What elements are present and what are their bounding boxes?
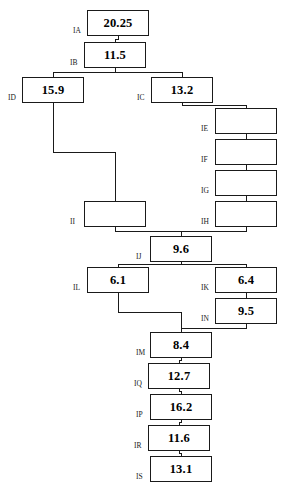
node-label-ia: IA	[73, 27, 81, 35]
connector-id-to-ii	[53, 103, 115, 201]
node-box-ig[interactable]	[215, 170, 277, 196]
node-box-im[interactable]: 8.4	[150, 332, 212, 358]
node-label-ih: IH	[201, 218, 209, 226]
node-label-in: IN	[201, 315, 209, 323]
node-label-ib: IB	[70, 59, 78, 67]
node-label-im: IM	[136, 349, 145, 357]
node-label-if: IF	[201, 156, 208, 164]
node-label-ir: IR	[134, 442, 142, 450]
node-box-iq[interactable]: 12.7	[148, 363, 210, 389]
connector-ib-to-id	[53, 68, 115, 77]
node-box-if[interactable]	[215, 139, 277, 165]
node-label-ik: IK	[201, 284, 209, 292]
node-label-id: ID	[8, 94, 16, 102]
node-label-ig: IG	[201, 187, 209, 195]
node-box-ih[interactable]	[215, 201, 277, 227]
node-box-ij[interactable]: 9.6	[150, 236, 212, 262]
node-box-ia[interactable]: 20.25	[87, 10, 149, 36]
node-box-ik[interactable]: 6.4	[215, 267, 277, 293]
node-value-is: 13.1	[170, 463, 193, 476]
node-value-ic: 13.2	[171, 84, 194, 97]
connector-in-to-im	[181, 324, 246, 332]
node-label-ic: IC	[137, 94, 145, 102]
node-value-il: 6.1	[110, 274, 126, 287]
node-value-iq: 12.7	[168, 370, 191, 383]
node-value-ir: 11.6	[168, 432, 190, 445]
connector-il-to-im	[118, 293, 181, 332]
connector-ii-to-ij	[115, 227, 181, 236]
node-box-il[interactable]: 6.1	[87, 267, 149, 293]
node-value-id: 15.9	[42, 84, 65, 97]
node-box-in[interactable]: 9.5	[215, 298, 277, 324]
node-value-im: 8.4	[173, 339, 189, 352]
node-box-is[interactable]: 13.1	[150, 456, 212, 482]
node-box-ib[interactable]: 11.5	[84, 42, 146, 68]
connector-ih-to-ij	[181, 227, 246, 236]
node-label-ie: IE	[201, 125, 208, 133]
tree-diagram-canvas: 20.25IA11.5IB15.9ID13.2ICIEIFIGIHII9.6IJ…	[0, 0, 289, 496]
node-value-ik: 6.4	[238, 274, 254, 287]
node-label-ip: IP	[136, 411, 143, 419]
node-box-ir[interactable]: 11.6	[148, 425, 210, 451]
node-box-ii[interactable]	[84, 201, 146, 227]
connector-ib-to-ic	[115, 68, 182, 77]
node-value-ib: 11.5	[104, 49, 126, 62]
node-label-iq: IQ	[134, 380, 142, 388]
connector-lines	[0, 0, 289, 496]
node-box-ic[interactable]: 13.2	[151, 77, 213, 103]
node-label-il: IL	[73, 284, 80, 292]
node-label-ii: II	[70, 218, 75, 226]
node-box-ie[interactable]	[215, 108, 277, 134]
node-value-ip: 16.2	[170, 401, 193, 414]
node-label-ij: IJ	[136, 253, 142, 261]
node-value-ia: 20.25	[103, 17, 132, 30]
node-value-ij: 9.6	[173, 243, 189, 256]
node-label-is: IS	[136, 473, 143, 481]
node-box-ip[interactable]: 16.2	[150, 394, 212, 420]
node-box-id[interactable]: 15.9	[22, 77, 84, 103]
node-value-in: 9.5	[238, 305, 254, 318]
